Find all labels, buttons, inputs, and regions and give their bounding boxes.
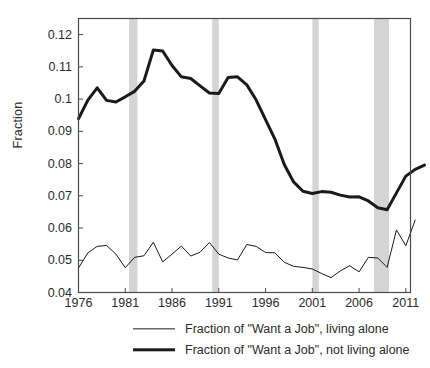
legend-line-thick-icon (133, 344, 175, 356)
legend-line-thin-icon (133, 323, 175, 335)
plot-area (0, 0, 430, 368)
legend-item-living-alone: Fraction of "Want a Job", living alone (0, 318, 430, 339)
legend-item-not-living-alone: Fraction of "Want a Job", not living alo… (0, 339, 430, 360)
legend-label-not-living-alone: Fraction of "Want a Job", not living alo… (185, 343, 410, 357)
chart-figure: Fraction 0.040.050.060.070.080.090.10.11… (0, 0, 430, 368)
legend-label-living-alone: Fraction of "Want a Job", living alone (185, 322, 389, 336)
shaded-band-recession-2007 (374, 19, 389, 293)
chart-legend: Fraction of "Want a Job", living alone F… (0, 318, 430, 360)
axes-frame (79, 19, 411, 293)
shaded-band-recession-1981 (129, 19, 137, 293)
shaded-band-recession-2001 (312, 19, 319, 293)
shaded-band-recession-1990 (212, 19, 219, 293)
